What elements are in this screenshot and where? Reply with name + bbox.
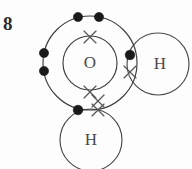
- diagram-page: 8 O H H: [0, 0, 192, 169]
- hydrogen-right-symbol-label: H: [154, 54, 166, 73]
- electron-dot-left-lower: [39, 66, 48, 75]
- hydrogen-bottom-symbol-label: H: [85, 130, 97, 149]
- water-dot-and-cross-diagram: O H H: [0, 0, 192, 169]
- electron-dot-top-left: [73, 12, 82, 21]
- electron-cross-inner-top: [84, 31, 96, 43]
- electron-dot-left-upper: [39, 48, 48, 57]
- electron-dot-bond-bottom: [73, 105, 83, 115]
- electron-dot-top-right: [94, 12, 103, 21]
- oxygen-symbol-label: O: [84, 53, 96, 72]
- electron-cross-bond-bottom-upper: [92, 95, 104, 107]
- electron-dot-bond-right: [125, 50, 135, 60]
- electron-cross-inner-bottom: [84, 86, 96, 98]
